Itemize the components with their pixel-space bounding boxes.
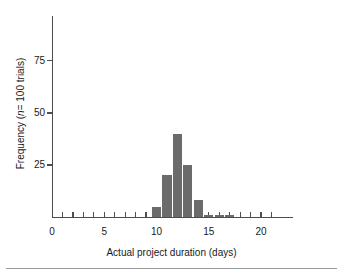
bar-x-10 — [152, 207, 161, 217]
y-axis-title-suffix: = 100 trials) — [15, 58, 26, 111]
y-axis-tick-label-25: 25 — [18, 159, 45, 170]
x-axis-tick-6 — [114, 212, 115, 217]
x-axis-tick-4 — [93, 212, 94, 217]
bar-x-13 — [183, 165, 192, 217]
x-axis-tick-label-20: 20 — [246, 226, 276, 237]
x-axis-tick-21 — [271, 212, 272, 217]
x-axis-tick-18 — [240, 212, 241, 217]
x-axis-tick-label-5: 5 — [89, 226, 119, 237]
x-axis-tick-2 — [72, 212, 73, 217]
y-axis-line — [52, 16, 53, 217]
y-axis-tick-50 — [47, 112, 52, 113]
x-axis-tick-8 — [135, 212, 136, 217]
x-axis-tick-label-15: 15 — [194, 226, 224, 237]
y-axis-tick-25 — [47, 164, 52, 165]
y-axis-tick-75 — [47, 60, 52, 61]
bar-x-12 — [173, 134, 182, 217]
histogram-figure: Frequency (n= 100 trials) 25507505101520… — [0, 0, 343, 275]
bar-x-11 — [162, 175, 171, 217]
x-axis-tick-9 — [145, 212, 146, 217]
x-axis-tick-19 — [250, 212, 251, 217]
bar-x-14 — [194, 200, 203, 217]
bar-x-17 — [225, 215, 234, 217]
x-axis-tick-label-10: 10 — [142, 226, 172, 237]
x-axis-title: Actual project duration (days) — [0, 247, 343, 258]
x-axis-tick-20 — [260, 212, 261, 217]
y-axis-tick-label-50: 50 — [18, 107, 45, 118]
y-axis-tick-label-75: 75 — [18, 55, 45, 66]
bar-x-16 — [215, 215, 224, 217]
x-axis-line — [52, 217, 293, 218]
x-axis-tick-1 — [62, 212, 63, 217]
footer-divider — [6, 268, 337, 269]
bar-x-15 — [204, 215, 213, 217]
x-axis-tick-label-0: 0 — [37, 226, 67, 237]
x-axis-tick-7 — [125, 212, 126, 217]
x-axis-tick-5 — [104, 212, 105, 217]
x-axis-tick-3 — [83, 212, 84, 217]
